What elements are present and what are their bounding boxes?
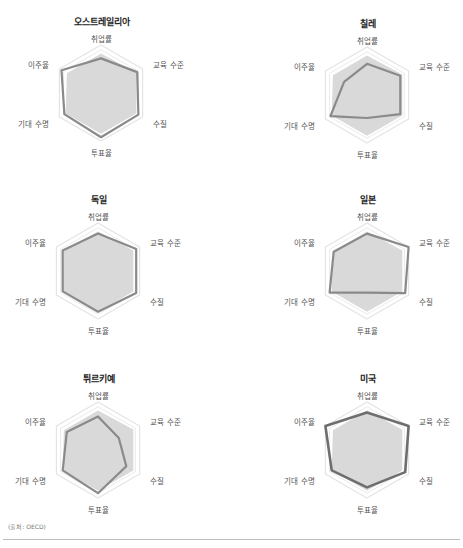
axis-label-education: 교육 수준 bbox=[419, 61, 449, 72]
axis-label-migration: 이주율 bbox=[294, 237, 315, 248]
axis-label-migration: 이주율 bbox=[294, 61, 315, 72]
source-note: (출처: OECD) bbox=[8, 522, 46, 531]
axis-label-water-quality: 수질 bbox=[153, 118, 167, 129]
radar-panel-chile: 칠레 취업률 교육 수준 수질 투표율 기대 수명 이주율 bbox=[232, 0, 463, 180]
axis-label-education: 교육 수준 bbox=[150, 416, 180, 427]
axis-label-migration: 이주율 bbox=[294, 416, 315, 427]
axis-label-migration: 이주율 bbox=[25, 237, 46, 248]
radar-panel-usa: 미국 취업률 교육 수준 수질 투표율 기대 수명 이주율 bbox=[232, 355, 463, 535]
axis-label-education: 교육 수준 bbox=[419, 237, 449, 248]
radar-panel-japan: 일본 취업률 교육 수준 수질 투표율 기대 수명 이주율 bbox=[232, 175, 463, 355]
axis-label-education: 교육 수준 bbox=[150, 237, 180, 248]
axis-label-life-expectancy: 기대 수명 bbox=[15, 296, 45, 307]
axis-label-water-quality: 수질 bbox=[150, 475, 164, 486]
axis-label-employment: 취업률 bbox=[58, 211, 138, 222]
axis-label-voter-turnout: 투표율 bbox=[327, 325, 407, 336]
axis-label-migration: 이주율 bbox=[25, 416, 46, 427]
axis-label-voter-turnout: 투표율 bbox=[61, 147, 141, 158]
axis-label-water-quality: 수질 bbox=[150, 296, 164, 307]
axis-label-employment: 취업률 bbox=[327, 390, 407, 401]
axis-label-life-expectancy: 기대 수명 bbox=[284, 296, 314, 307]
axis-label-education: 교육 수준 bbox=[153, 59, 183, 70]
axis-label-voter-turnout: 투표율 bbox=[58, 325, 138, 336]
axis-label-water-quality: 수질 bbox=[419, 475, 433, 486]
bottom-divider bbox=[3, 539, 460, 540]
radar-panel-germany: 독일 취업률 교육 수준 수질 투표율 기대 수명 이주율 bbox=[0, 175, 231, 355]
axis-label-life-expectancy: 기대 수명 bbox=[18, 118, 48, 129]
axis-label-education: 교육 수준 bbox=[419, 416, 449, 427]
axis-label-employment: 취업률 bbox=[58, 390, 138, 401]
axis-label-water-quality: 수질 bbox=[419, 120, 433, 131]
axis-label-employment: 취업률 bbox=[327, 35, 407, 46]
axis-label-employment: 취업률 bbox=[61, 33, 141, 44]
axis-label-life-expectancy: 기대 수명 bbox=[284, 475, 314, 486]
radar-panel-australia: 오스트레일리아 취업률 교육 수준 수질 투표율 기대 수명 이주율 bbox=[0, 0, 231, 180]
axis-label-life-expectancy: 기대 수명 bbox=[284, 120, 314, 131]
axis-label-voter-turnout: 투표율 bbox=[327, 149, 407, 160]
axis-label-employment: 취업률 bbox=[327, 211, 407, 222]
axis-label-life-expectancy: 기대 수명 bbox=[15, 475, 45, 486]
axis-label-migration: 이주율 bbox=[28, 59, 49, 70]
axis-label-voter-turnout: 투표율 bbox=[327, 504, 407, 515]
radar-panel-turkiye: 튀르키예 취업률 교육 수준 수질 투표율 기대 수명 이주율 bbox=[0, 355, 231, 535]
axis-label-water-quality: 수질 bbox=[419, 296, 433, 307]
axis-label-voter-turnout: 투표율 bbox=[58, 504, 138, 515]
